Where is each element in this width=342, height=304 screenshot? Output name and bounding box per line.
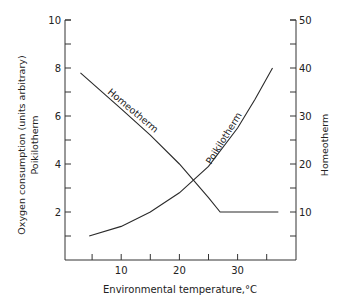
y-axis-label-left-sub: Poikilotherm [29, 115, 40, 174]
x-tick-label: 10 [115, 265, 128, 276]
y-right-tick-label: 10 [299, 207, 312, 218]
y-left-tick-label: 10 [48, 15, 61, 26]
tick-labels: 1020302468101020304050 [48, 15, 311, 276]
y-right-tick-label: 20 [299, 159, 312, 170]
series-label-homeotherm: Homeotherm [106, 86, 161, 135]
y-right-tick-label: 40 [299, 63, 312, 74]
axes [65, 20, 296, 260]
y-right-tick-label: 30 [299, 111, 312, 122]
y-left-tick-label: 2 [55, 207, 61, 218]
y-left-tick-label: 8 [55, 63, 61, 74]
series-label-poikilotherm: Poikilotherm [203, 110, 244, 166]
x-tick-label: 30 [231, 265, 244, 276]
y-left-tick-label: 4 [55, 159, 61, 170]
y-left-tick-label: 6 [55, 111, 61, 122]
x-tick-label: 20 [173, 265, 186, 276]
y-axis-label-left: Oxygen consumption (units arbitrary) [16, 55, 27, 234]
y-right-tick-label: 50 [299, 15, 312, 26]
ticks [65, 20, 296, 260]
x-axis-label: Environmental temperature,°C [103, 284, 257, 295]
chart: 1020302468101020304050 Environmental tem… [0, 0, 342, 304]
y-axis-label-right: Homeotherm [319, 114, 330, 176]
